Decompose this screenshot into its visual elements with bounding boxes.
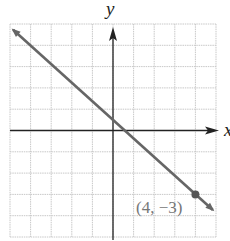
data-point: [191, 190, 199, 198]
axes: [10, 27, 219, 240]
x-axis-label: x: [224, 119, 230, 141]
point-label: (4, −3): [136, 198, 182, 218]
data-points: [191, 190, 199, 198]
coordinate-plane: [0, 0, 230, 241]
y-axis-label: y: [106, 0, 114, 20]
